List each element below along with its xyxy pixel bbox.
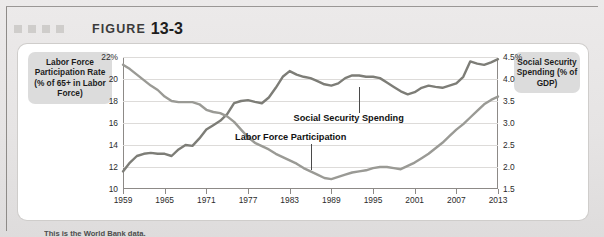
figure-header: FIGURE 13-3 <box>14 18 183 40</box>
right-axis-tick-label: 2.0 <box>503 162 515 172</box>
figure-caption: This is the World Bank data. <box>44 229 564 237</box>
right-axis-tick-label: 1.5 <box>503 184 515 194</box>
square-marker-icon <box>56 25 64 33</box>
left-axis-title: Labor Force Participation Rate (% of 65+… <box>28 52 112 104</box>
x-axis-tick-label: 1959 <box>114 195 133 205</box>
x-axis-tick-label: 1989 <box>322 195 341 205</box>
left-axis-tick-label: 20 <box>109 74 118 84</box>
right-axis-tick-label: 4.5% <box>503 52 522 62</box>
x-axis-tickmark <box>456 189 457 194</box>
square-marker-icon <box>42 25 50 33</box>
x-axis-tick-label: 1995 <box>364 195 383 205</box>
labor-force-annotation: Labor Force Participation <box>235 132 346 142</box>
x-axis-tickmark <box>331 189 332 194</box>
x-axis-tick-label: 2001 <box>405 195 424 205</box>
x-axis-tick-label: 1983 <box>280 195 299 205</box>
x-axis-tickmark <box>415 189 416 194</box>
x-axis-tickmark <box>248 189 249 194</box>
x-axis-tickmark <box>373 189 374 194</box>
x-axis-tickmark <box>290 189 291 194</box>
right-axis-tick-label: 3.0 <box>503 118 515 128</box>
figure-label: FIGURE <box>92 22 146 36</box>
social-security-annotation: Social Security Spending <box>294 113 404 123</box>
left-axis-tick-label: 22% <box>101 52 118 62</box>
x-axis-tickmark <box>206 189 207 194</box>
square-marker-icon <box>14 25 22 33</box>
left-axis-tick-label: 16 <box>109 118 118 128</box>
x-axis-tick-label: 1977 <box>239 195 258 205</box>
plot-area: 22%201816141210 4.5%4.03.53.02.52.01.5 1… <box>123 57 498 189</box>
figure-number: 13-3 <box>151 20 183 38</box>
figure-container: FIGURE 13-3 Labor Force Participation Ra… <box>0 0 604 237</box>
square-marker-icon <box>28 25 36 33</box>
left-axis-tick-label: 14 <box>109 140 118 150</box>
x-axis-tick-label: 2007 <box>447 195 466 205</box>
x-axis-tick-label: 1965 <box>155 195 174 205</box>
right-axis-tick-label: 4.0 <box>503 74 515 84</box>
left-axis-tick-label: 10 <box>109 184 118 194</box>
chart-card: Labor Force Participation Rate (% of 65+… <box>18 44 588 220</box>
right-axis-tick-label: 3.5 <box>503 96 515 106</box>
x-axis-tickmark <box>165 189 166 194</box>
right-axis-tick-label: 2.5 <box>503 140 515 150</box>
left-axis-tick-label: 12 <box>109 162 118 172</box>
x-axis-tick-label: 1971 <box>197 195 216 205</box>
labor-force-leader-line <box>311 144 312 170</box>
x-axis-tickmark <box>123 189 124 194</box>
left-axis-tick-label: 18 <box>109 96 118 106</box>
social-security-leader-line <box>359 87 360 113</box>
right-axis-title: Social Security Spending (% of GDP) <box>514 52 580 93</box>
x-axis-tick-label: 2013 <box>489 195 508 205</box>
x-axis-tickmark <box>498 189 499 194</box>
